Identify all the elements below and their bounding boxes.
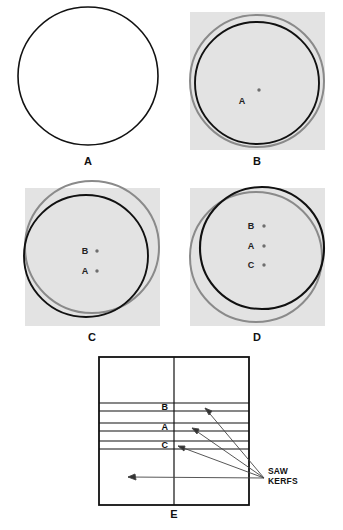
panel-caption-c: C (76, 331, 108, 343)
panel-d-dot-label-c: C (248, 260, 255, 270)
panel-b-dot-label-a: A (239, 96, 246, 106)
panel-d-tint (190, 188, 325, 326)
panel-d-dot-c (262, 263, 265, 266)
panel-b-dot-a (257, 88, 260, 91)
panel-d-dot-a (262, 244, 265, 247)
panel-c-dot-b (95, 249, 98, 252)
diagram-canvas: A B A B A C (0, 0, 343, 530)
panel-d-dot-b (262, 224, 265, 227)
figure-saw-kerf-diagram: A B A B A C (0, 0, 343, 530)
panel-d-dot-label-b: B (248, 221, 255, 231)
panel-caption-d: D (241, 331, 273, 343)
panel-e-kerf-label-a: A (162, 422, 169, 432)
panel-e-kerf-label-c: C (162, 440, 169, 450)
panel-e: B A C (99, 357, 264, 505)
panel-d: B A C (190, 187, 325, 326)
panel-e-kerf-label-b: B (162, 402, 169, 412)
panel-caption-b: B (241, 155, 273, 167)
panel-caption-e: E (158, 508, 190, 520)
panel-e-kerf-arrows (128, 408, 264, 480)
panel-c-tint (25, 188, 160, 326)
panel-c-dot-a (95, 269, 98, 272)
panel-c: B A (24, 181, 160, 326)
panel-d-dot-label-a: A (248, 241, 255, 251)
panel-caption-a: A (72, 155, 104, 167)
panel-b: A (190, 12, 325, 150)
panel-c-dot-label-a: A (82, 266, 89, 276)
panel-a-circle-current (18, 7, 158, 145)
panel-a (18, 7, 158, 145)
saw-kerfs-annotation: SAW KERFS (268, 466, 298, 486)
panel-c-dot-label-b: B (82, 246, 89, 256)
